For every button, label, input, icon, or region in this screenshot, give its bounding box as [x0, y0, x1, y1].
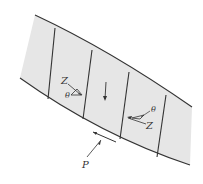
pore-pressure-force: P: [81, 132, 116, 170]
left-force-label: Z: [60, 75, 69, 86]
left-angle-label: θ: [65, 91, 70, 100]
right-force-label: Z: [145, 120, 154, 131]
pore-pressure-label: P: [81, 159, 89, 170]
right-angle-label: θ: [151, 105, 156, 114]
slope-slices-diagram: Z θ Z θ P: [0, 0, 203, 184]
